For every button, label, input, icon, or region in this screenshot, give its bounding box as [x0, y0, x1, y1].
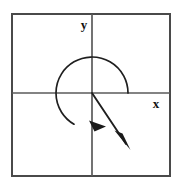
- coordinate-plane-svg: y x: [0, 0, 182, 188]
- y-axis-label: y: [81, 17, 88, 32]
- x-axis-label: x: [153, 96, 160, 111]
- figure-frame: [12, 14, 170, 176]
- angle-diagram-figure: y x: [0, 0, 182, 188]
